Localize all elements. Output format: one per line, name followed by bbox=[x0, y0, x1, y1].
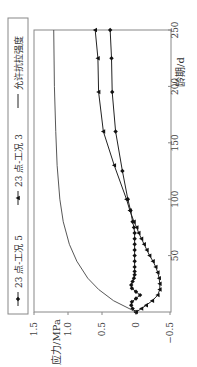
x-tick-label: 100 bbox=[170, 190, 180, 207]
legend: 23 点-工况 523 点-工况 3允许抗拉强度 bbox=[8, 18, 28, 314]
svg-text:允许抗拉强度: 允许抗拉强度 bbox=[13, 36, 24, 90]
x-tick-label: 250 bbox=[170, 21, 180, 38]
x-tick-label: 50 bbox=[170, 250, 180, 262]
y-tick-label: 1.5 bbox=[29, 322, 39, 337]
y-axis-label: 应力/MPa bbox=[50, 319, 62, 365]
svg-text:23 点-工况 3: 23 点-工况 3 bbox=[14, 134, 24, 187]
x-axis-label: 龄期/d bbox=[174, 57, 186, 87]
x-tick-label: 150 bbox=[170, 134, 180, 151]
y-tick-label: 0.5 bbox=[97, 322, 107, 337]
y-tick-label: 1.0 bbox=[63, 322, 73, 337]
rotated-line-chart: 1.51.00.50−0.550100150200250 23 点-工况 523… bbox=[0, 0, 197, 367]
svg-text:23 点-工况 5: 23 点-工况 5 bbox=[14, 235, 24, 288]
y-tick-label: 0 bbox=[131, 322, 141, 328]
y-tick-label: −0.5 bbox=[165, 322, 175, 344]
